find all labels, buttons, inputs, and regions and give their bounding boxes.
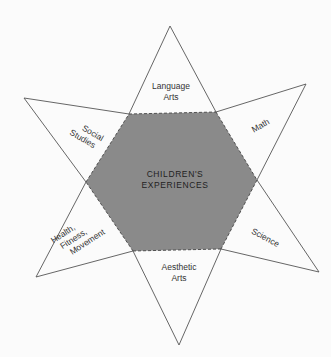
- label-language: Language: [152, 81, 190, 91]
- label-health-group: Health, Fitness, Movement: [49, 210, 107, 262]
- center-label-line2: EXPERIENCES: [141, 180, 208, 190]
- center-label-line1: CHILDREN'S: [147, 169, 204, 179]
- label-arts-bottom: Arts: [171, 273, 186, 283]
- label-aesthetic: Aesthetic: [162, 262, 198, 272]
- star-diagram-svg: CHILDREN'S EXPERIENCES Language Arts Mat…: [0, 0, 331, 357]
- curriculum-star-diagram: CHILDREN'S EXPERIENCES Language Arts Mat…: [0, 0, 331, 357]
- label-science: Science: [250, 226, 282, 249]
- label-math: Math: [250, 116, 272, 134]
- label-social-studies-group: Social Studies: [68, 119, 106, 152]
- label-arts-top: Arts: [163, 92, 178, 102]
